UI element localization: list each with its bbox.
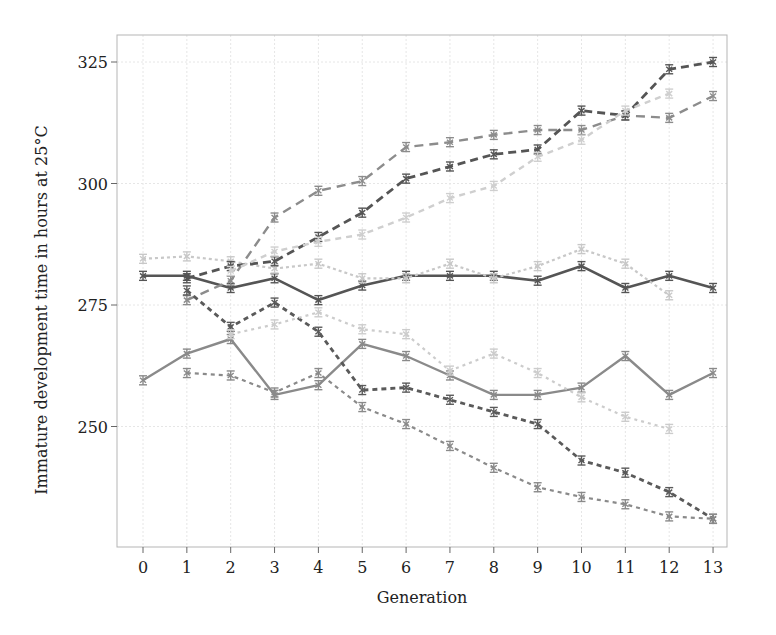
error-bar [665,424,673,433]
error-bar [402,330,410,339]
y-axis: 250275300325 [77,53,117,437]
y-axis-title: Immature development time in hours at 25… [32,125,51,494]
error-bar [314,259,322,268]
x-tick-label: 4 [313,558,323,577]
x-tick-label: 7 [445,558,455,577]
error-bar [578,456,586,465]
x-tick-label: 9 [533,558,543,577]
error-bar [578,245,586,254]
error-bar [665,512,673,521]
x-axis: 012345678910111213 [138,547,723,577]
series-path [143,339,713,395]
error-bar [534,369,542,378]
x-tick-label: 1 [182,558,192,577]
y-tick-label: 325 [77,53,108,72]
error-bar [183,252,191,261]
error-bar [139,376,147,385]
error-bar [534,262,542,271]
y-tick-label: 300 [77,175,108,194]
error-bar [358,403,366,412]
y-tick-label: 275 [77,296,108,315]
x-tick-label: 2 [226,558,236,577]
x-tick-label: 11 [615,558,635,577]
error-bar [578,393,586,402]
line-chart: 012345678910111213 250275300325 Generati… [0,0,776,635]
error-bar [490,463,498,472]
error-bar [709,92,717,101]
series-layer [139,58,717,524]
x-tick-label: 12 [659,558,679,577]
x-tick-label: 8 [489,558,499,577]
series-line [139,335,717,400]
x-axis-title: Generation [377,588,468,607]
x-tick-label: 10 [571,558,591,577]
error-bar [446,259,454,268]
error-bar [709,369,717,378]
error-bar [314,186,322,195]
error-bar [621,259,629,268]
x-tick-label: 5 [357,558,367,577]
error-bar [314,369,322,378]
error-bar [534,483,542,492]
x-tick-label: 3 [269,558,279,577]
x-tick-label: 13 [703,558,723,577]
x-tick-label: 6 [401,558,411,577]
error-bar [446,441,454,450]
error-bar [402,420,410,429]
y-tick-label: 250 [77,418,108,437]
x-tick-label: 0 [138,558,148,577]
